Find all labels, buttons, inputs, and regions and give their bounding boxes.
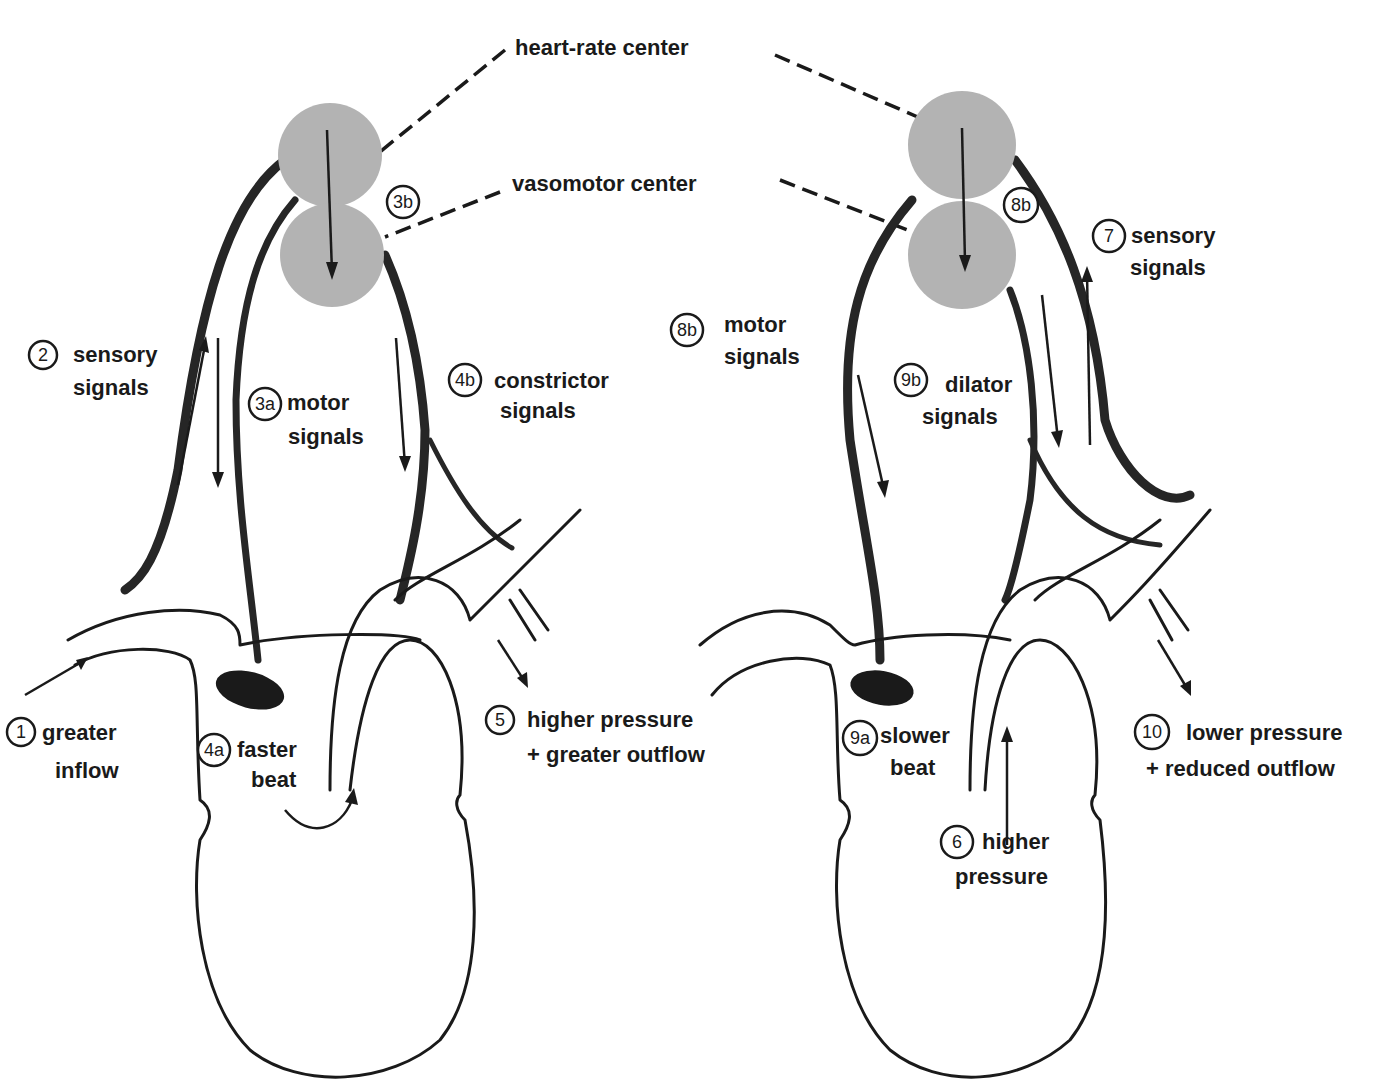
pacemaker-node-left	[212, 664, 289, 717]
arrow-head	[399, 456, 411, 472]
arrow-head	[212, 472, 224, 488]
step-8b: 8b motor signals	[671, 312, 800, 369]
svg-text:9b: 9b	[901, 370, 921, 390]
sensory-nerve-left	[125, 160, 285, 590]
svg-text:signals: signals	[724, 344, 800, 369]
svg-text:higher: higher	[982, 829, 1050, 854]
svg-text:faster: faster	[237, 737, 297, 762]
step-6: 6 higher pressure	[941, 826, 1050, 889]
leader-line-hr-right	[775, 55, 920, 118]
dilator-down-arrow-right	[1042, 295, 1058, 440]
svg-text:9a: 9a	[850, 728, 871, 748]
heart-regulation-diagram: heart-rate center vasomotor center	[0, 0, 1384, 1085]
constrictor-nerve-left	[385, 255, 425, 600]
svg-text:7: 7	[1104, 226, 1114, 246]
pacemaker-node-right	[848, 666, 917, 711]
svg-text:lower pressure: lower pressure	[1186, 720, 1343, 745]
svg-text:5: 5	[495, 710, 505, 730]
constrictor-down-arrow-left	[396, 338, 405, 466]
step-9a: 9a slower beat	[843, 721, 950, 780]
arrow-head	[345, 788, 358, 805]
svg-text:motor: motor	[724, 312, 787, 337]
leader-line-hr-left	[370, 50, 505, 160]
svg-text:6: 6	[952, 832, 962, 852]
heart-rate-center-label: heart-rate center	[515, 35, 689, 60]
svg-text:sensory: sensory	[73, 342, 158, 367]
arrow-head	[1051, 430, 1063, 448]
inflow-arrow	[25, 660, 85, 695]
arrow-head	[1180, 680, 1191, 696]
svg-text:4b: 4b	[455, 370, 475, 390]
sensory-nerve-right	[1015, 160, 1190, 498]
svg-text:1: 1	[16, 722, 26, 742]
svg-text:signals: signals	[73, 375, 149, 400]
step-5: 5 higher pressure + greater outflow	[486, 706, 706, 767]
motor-down-arrow-right	[858, 375, 884, 490]
svg-text:higher pressure: higher pressure	[527, 707, 693, 732]
svg-text:motor: motor	[287, 390, 350, 415]
left-panel: 1 greater inflow 2 sensory signals 3a mo…	[7, 103, 706, 1077]
svg-text:3a: 3a	[255, 394, 276, 414]
svg-text:pressure: pressure	[955, 864, 1048, 889]
svg-text:8b: 8b	[677, 320, 697, 340]
step-7: 7 sensory signals	[1093, 220, 1216, 280]
svg-text:beat: beat	[890, 755, 936, 780]
step-1: 1 greater inflow	[7, 718, 119, 783]
svg-text:2: 2	[38, 345, 48, 365]
step-3a: 3a motor signals	[249, 388, 364, 449]
motor-nerve-right	[848, 200, 912, 660]
svg-text:signals: signals	[288, 424, 364, 449]
ejection-arrow-left	[285, 800, 352, 828]
step-4a: 4a faster beat	[198, 734, 297, 792]
svg-text:+ reduced outflow: + reduced outflow	[1146, 756, 1336, 781]
step-2: 2 sensory signals	[29, 341, 158, 400]
svg-text:dilator: dilator	[945, 372, 1013, 397]
artery-branch-right	[1150, 590, 1188, 640]
svg-text:8b: 8b	[1011, 195, 1031, 215]
svg-text:signals: signals	[500, 398, 576, 423]
artery-branch-left	[510, 590, 548, 640]
svg-text:4a: 4a	[204, 740, 225, 760]
heart-outline-right	[712, 640, 1106, 1077]
arrow-head	[1081, 266, 1093, 282]
svg-text:inflow: inflow	[55, 758, 119, 783]
vein-upper-right	[700, 611, 1010, 645]
svg-text:beat: beat	[251, 767, 297, 792]
outflow-arrow-right	[1158, 640, 1188, 690]
sensory-up-arrow-right	[1087, 272, 1090, 445]
step-9b: 9b dilator signals	[895, 364, 1013, 429]
svg-text:+ greater outflow: + greater outflow	[527, 742, 706, 767]
svg-text:slower: slower	[880, 723, 950, 748]
arrow-head	[76, 657, 88, 670]
arrow-head	[877, 480, 889, 498]
step-10: 10 lower pressure + reduced outflow	[1135, 715, 1343, 781]
right-panel: 6 higher pressure 7 sensory signals 8b 8…	[671, 91, 1343, 1077]
arrow-head	[1001, 726, 1013, 742]
step-8b-top: 8b	[1004, 188, 1038, 222]
svg-text:constrictor: constrictor	[494, 368, 609, 393]
step-4b: 4b constrictor signals	[449, 364, 609, 423]
step-3b: 3b	[387, 186, 419, 218]
svg-text:10: 10	[1142, 722, 1162, 742]
svg-text:3b: 3b	[393, 192, 413, 212]
svg-text:greater: greater	[42, 720, 117, 745]
svg-text:sensory: sensory	[1131, 223, 1216, 248]
vasomotor-center-label: vasomotor center	[512, 171, 697, 196]
svg-text:signals: signals	[922, 404, 998, 429]
constrictor-branch-left	[430, 440, 512, 548]
dilator-branch-right	[1030, 440, 1160, 545]
svg-text:signals: signals	[1130, 255, 1206, 280]
vein-upper-left	[68, 610, 420, 645]
